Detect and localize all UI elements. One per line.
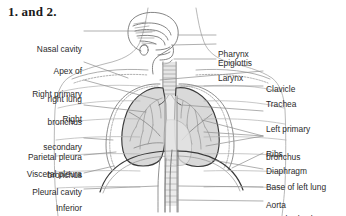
ribs-shape: [56, 85, 286, 188]
leader-ribs-fan: [202, 120, 263, 146]
diaphragm-inner-shape: [103, 156, 240, 193]
aorta-shape: [170, 150, 178, 212]
leader-apex-right-lung: [84, 62, 128, 78]
leader-diaphragm: [232, 153, 263, 168]
leader-vertebral-column: [177, 200, 263, 201]
right-lung-shape: [122, 88, 167, 166]
pharynx-larynx-shape: [140, 45, 174, 64]
nasal-cavity-turbinates-shape: [134, 22, 156, 44]
label-larynx: Larynx: [218, 55, 243, 102]
main-bronchi-shape: [159, 96, 181, 105]
trachea-shape: [163, 62, 176, 96]
leader-pleural-cavity: [84, 166, 114, 173]
diagram-page: 1. and 2.: [0, 0, 346, 216]
head-profile-shape: [128, 12, 178, 74]
leader-right-secondary-bronchus: [84, 105, 146, 112]
leader-visceral-pleura: [84, 152, 116, 155]
label-line: Right: [6, 115, 82, 124]
label-vertebral-column: Vertebral column: [266, 196, 329, 216]
label-line: Vertebral column: [266, 215, 329, 216]
leader-epiglottis: [172, 44, 216, 45]
leader-inferior-vena-cava: [84, 186, 158, 189]
inferior-vena-cava-shape: [158, 158, 166, 212]
leader-parietal-pleura: [84, 138, 113, 140]
leader-right-primary-bronchus: [84, 80, 158, 100]
label-line: Larynx: [218, 74, 243, 83]
pleura-shape: [106, 84, 234, 170]
vertebral-column-shape: [165, 96, 177, 212]
lung-fissures-shape: [129, 112, 212, 148]
diaphragm-shape: [100, 151, 243, 192]
label-line: Inferior: [4, 204, 82, 213]
leader-aorta: [178, 186, 263, 187]
left-lung-shape: [175, 88, 220, 167]
mediastinum-shape: [164, 120, 192, 166]
page-title: 1. and 2.: [8, 4, 57, 20]
right-bronchial-tree-shape: [130, 98, 162, 149]
label-inferior-vena-cava: Inferior vena cava: [4, 185, 82, 216]
leader-left-primary-bronchus: [182, 105, 263, 111]
left-bronchial-tree-shape: [177, 98, 211, 149]
leader-base-of-left-lung: [212, 160, 263, 169]
